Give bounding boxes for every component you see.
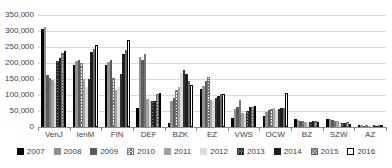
bar-ez-2016 (222, 94, 225, 127)
x-axis-label-bz: BZ (291, 130, 323, 139)
x-axis-label-szw: SZW (323, 130, 355, 139)
x-axis-label-vws: VWS (228, 130, 260, 139)
legend-item-2015: 2015 (311, 147, 339, 156)
legend-item-2016: 2016 (347, 147, 375, 156)
legend-swatch-2009 (90, 148, 97, 155)
y-axis-tick-label: 300,000 (0, 27, 34, 35)
bar-group-ez (196, 15, 228, 127)
bar-vws-2016 (254, 106, 257, 127)
grouped-bar-chart: 050,000100,000150,000200,000250,000300,0… (0, 0, 392, 168)
bar-ienm-2016 (95, 45, 98, 127)
legend-swatch-2015 (311, 148, 318, 155)
y-axis-tick-label: 150,000 (0, 75, 34, 83)
legend-item-2012: 2012 (200, 147, 228, 156)
legend-item-2011: 2011 (164, 147, 191, 156)
bar-group-ienm (70, 15, 102, 127)
legend-swatch-2013 (237, 148, 244, 155)
y-axis-tick-label: 350,000 (0, 11, 34, 19)
x-axis-tick (386, 127, 387, 131)
bar-group-def (133, 15, 165, 127)
legend-label-2009: 2009 (100, 147, 118, 156)
legend: 2007200820092010201120122013201420152016 (0, 147, 392, 156)
legend-label-2012: 2012 (210, 147, 228, 156)
bar-group-az (354, 15, 386, 127)
legend-label-2015: 2015 (321, 147, 339, 156)
legend-label-2008: 2008 (64, 147, 82, 156)
legend-item-2010: 2010 (127, 147, 155, 156)
bar-def-2016 (159, 93, 162, 127)
legend-swatch-2010 (127, 148, 134, 155)
legend-swatch-2011 (164, 148, 171, 155)
y-axis-tick-label: 100,000 (0, 91, 34, 99)
x-axis-label-ocw: OCW (259, 130, 291, 139)
plot-area (38, 15, 386, 128)
bar-group-venj (38, 15, 70, 127)
y-axis-tick-label: 50,000 (0, 107, 34, 115)
legend-swatch-2008 (54, 148, 61, 155)
x-axis-label-ez: EZ (196, 130, 228, 139)
legend-label-2016: 2016 (357, 147, 375, 156)
bar-bz-2016 (317, 122, 320, 127)
x-axis-label-ienm: IenM (70, 130, 102, 139)
legend-item-2009: 2009 (90, 147, 118, 156)
x-axis-label-venj: VenJ (38, 130, 70, 139)
y-axis-labels: 050,000100,000150,000200,000250,000300,0… (0, 0, 34, 168)
bar-groups (38, 15, 386, 127)
legend-label-2013: 2013 (247, 147, 265, 156)
legend-swatch-2007 (17, 148, 24, 155)
bar-fin-2016 (127, 40, 130, 127)
bar-venj-2016 (64, 51, 67, 127)
legend-label-2007: 2007 (27, 147, 45, 156)
legend-swatch-2014 (274, 148, 281, 155)
legend-item-2013: 2013 (237, 147, 265, 156)
x-axis-label-bzk: BZK (165, 130, 197, 139)
x-axis-category-labels: VenJIenMFINDEFBZKEZVWSOCWBZSZWAZ (38, 130, 386, 139)
y-axis-tick-label: 250,000 (0, 43, 34, 51)
legend-item-2014: 2014 (274, 147, 302, 156)
legend-label-2014: 2014 (284, 147, 302, 156)
bar-group-fin (101, 15, 133, 127)
legend-swatch-2016 (347, 148, 354, 155)
legend-item-2007: 2007 (17, 147, 45, 156)
bar-szw-2016 (349, 124, 352, 127)
bar-bzk-2016 (190, 85, 193, 127)
y-axis-tick-label: 0 (0, 123, 34, 131)
legend-swatch-2012 (200, 148, 207, 155)
x-axis-label-fin: FIN (101, 130, 133, 139)
x-axis-label-az: AZ (354, 130, 386, 139)
bar-group-vws (228, 15, 260, 127)
legend-label-2011: 2011 (174, 147, 191, 156)
legend-label-2010: 2010 (137, 147, 155, 156)
x-axis-label-def: DEF (133, 130, 165, 139)
bar-ocw-2016 (285, 93, 288, 127)
y-axis-tick-label: 200,000 (0, 59, 34, 67)
bar-group-bz (291, 15, 323, 127)
bar-az-2016 (380, 125, 383, 127)
bar-group-ocw (259, 15, 291, 127)
bar-group-bzk (165, 15, 197, 127)
bar-group-szw (323, 15, 355, 127)
legend-item-2008: 2008 (54, 147, 82, 156)
